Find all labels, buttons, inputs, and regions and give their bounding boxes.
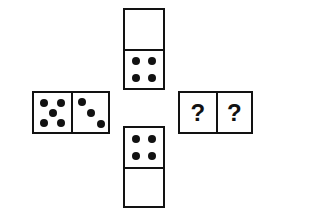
domino-bottom[interactable] (123, 126, 165, 208)
pip (132, 74, 140, 82)
domino-bottom-lower-half (125, 167, 163, 206)
question-mark-icon: ? (227, 100, 242, 124)
domino-left[interactable] (32, 91, 110, 134)
pip (132, 57, 140, 65)
domino-bottom-upper-half (125, 128, 163, 167)
pip (132, 152, 140, 160)
question-mark-icon: ? (190, 100, 205, 124)
domino-puzzle-canvas: ? ? (0, 0, 309, 215)
pip (132, 135, 140, 143)
pip (148, 57, 156, 65)
domino-right-left-half[interactable]: ? (180, 93, 216, 132)
domino-right-right-half[interactable]: ? (216, 93, 252, 132)
pip (78, 98, 86, 106)
pip (148, 74, 156, 82)
pip (148, 135, 156, 143)
domino-top-lower-half (125, 49, 163, 88)
pip (40, 99, 48, 107)
pip (148, 152, 156, 160)
domino-top[interactable] (123, 8, 165, 90)
domino-left-left-half (34, 93, 71, 132)
pip (57, 99, 65, 107)
pip (97, 120, 105, 128)
pip (57, 119, 65, 127)
domino-top-upper-half (125, 10, 163, 49)
domino-left-right-half (71, 93, 108, 132)
domino-right-unknown[interactable]: ? ? (178, 91, 253, 134)
pip (87, 109, 95, 117)
pip (40, 119, 48, 127)
pip (49, 109, 57, 117)
